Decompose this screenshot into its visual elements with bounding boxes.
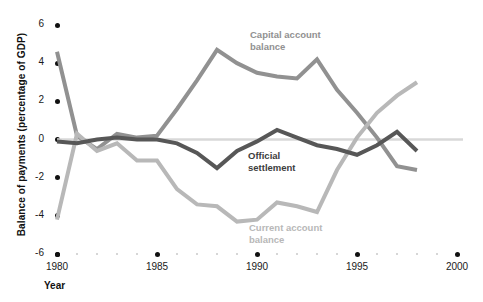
series-line-official-settlement	[57, 130, 417, 168]
chart-container: Balance of payments (percentage of GDP) …	[0, 0, 483, 302]
official-settlement-label: Official settlement	[248, 150, 296, 174]
current-account-balance-label: Current account balance	[249, 222, 322, 246]
plot-area	[0, 0, 483, 302]
capital-account-balance-label: Capital account balance	[250, 29, 321, 53]
